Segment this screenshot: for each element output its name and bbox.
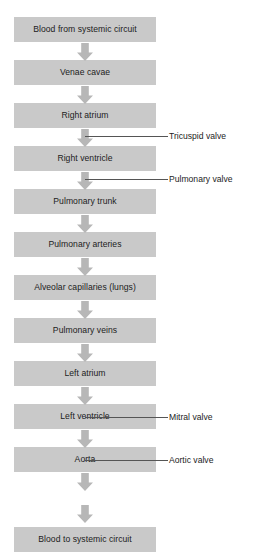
flow-node: Pulmonary trunk xyxy=(14,189,156,214)
flow-node: Blood to systemic circuit xyxy=(14,527,156,552)
leader-line xyxy=(85,460,168,461)
flow-node: Pulmonary veins xyxy=(14,318,156,343)
valve-annotation-label: Pulmonary valve xyxy=(168,175,233,184)
down-arrow-icon xyxy=(77,387,93,405)
valve-annotation: Tricuspid valve xyxy=(85,131,226,142)
down-arrow-icon xyxy=(77,344,93,362)
valve-annotation: Pulmonary valve xyxy=(85,174,233,185)
down-arrow-icon xyxy=(77,86,93,104)
down-arrow-icon xyxy=(77,430,93,448)
valve-annotation: Aortic valve xyxy=(85,455,213,466)
flow-node: Blood from systemic circuit xyxy=(14,17,156,42)
flow-node-label: Venae cavae xyxy=(60,68,110,77)
down-arrow-icon xyxy=(77,473,93,491)
flow-node: Pulmonary arteries xyxy=(14,232,156,257)
flow-node-label: Pulmonary veins xyxy=(53,326,117,335)
flow-node-label: Alveolar capillaries (lungs) xyxy=(34,283,136,292)
flow-node-label: Right ventricle xyxy=(57,154,112,163)
valve-annotation-label: Tricuspid valve xyxy=(168,132,226,141)
down-arrow-icon xyxy=(77,43,93,61)
down-arrow-icon xyxy=(77,505,93,523)
flow-node: Venae cavae xyxy=(14,60,156,85)
leader-line xyxy=(85,417,168,418)
flow-node-label: Left atrium xyxy=(64,369,105,378)
flow-node: Alveolar capillaries (lungs) xyxy=(14,275,156,300)
flow-node-label: Blood from systemic circuit xyxy=(33,25,137,34)
down-arrow-icon xyxy=(77,215,93,233)
flow-node: Right atrium xyxy=(14,103,156,128)
valve-annotation-label: Mitral valve xyxy=(168,413,212,422)
leader-line xyxy=(85,179,168,180)
valve-annotation: Mitral valve xyxy=(85,412,212,423)
flow-node: Left atrium xyxy=(14,361,156,386)
flow-node-label: Right atrium xyxy=(62,111,109,120)
flowchart-diagram: Blood from systemic circuit Venae cavae … xyxy=(0,0,258,556)
flow-node-label: Pulmonary trunk xyxy=(53,197,116,206)
down-arrow-icon xyxy=(77,301,93,319)
leader-line xyxy=(85,136,168,137)
valve-annotation-label: Aortic valve xyxy=(168,456,213,465)
flow-node-label: Pulmonary arteries xyxy=(48,240,121,249)
flow-node-label: Blood to systemic circuit xyxy=(38,535,131,544)
flow-node: Right ventricle xyxy=(14,146,156,171)
down-arrow-icon xyxy=(77,258,93,276)
